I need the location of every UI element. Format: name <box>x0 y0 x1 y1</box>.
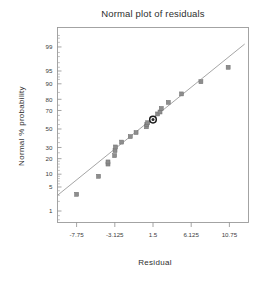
data-point-marker <box>113 154 117 158</box>
x-tick-label: 6.125 <box>183 231 199 238</box>
x-tick-label: 1.5 <box>149 231 158 238</box>
y-tick-label: 20 <box>46 155 53 162</box>
data-point-marker <box>180 92 184 96</box>
data-point-marker <box>159 106 163 110</box>
data-point-marker <box>75 192 79 196</box>
highlighted-data-point <box>150 116 157 123</box>
y-tick-label: 90 <box>46 80 53 87</box>
x-tick-label: -7.75 <box>70 231 85 238</box>
data-point-marker <box>106 160 110 164</box>
data-point-marker <box>113 145 117 149</box>
y-tick-label: 50 <box>46 125 53 132</box>
data-point-marker <box>120 140 124 144</box>
highlight-core <box>152 118 155 121</box>
x-axis-title: Residual <box>138 258 172 267</box>
y-tick-label: 10 <box>46 170 53 177</box>
chart-background <box>0 0 267 284</box>
data-point-marker <box>134 131 138 135</box>
x-tick-label: 10.75 <box>222 231 238 238</box>
y-axis-title: Normal % probability <box>17 86 26 166</box>
x-tick-label: -3.125 <box>106 231 124 238</box>
y-tick-label: 80 <box>46 96 53 103</box>
chart-title: Normal plot of residuals <box>101 8 204 19</box>
data-point-marker <box>146 121 150 125</box>
normal-probability-plot: Normal plot of residuals 151020305070809… <box>0 0 267 284</box>
data-point-marker <box>226 65 230 69</box>
data-point-marker <box>199 80 203 84</box>
y-tick-label: 5 <box>49 183 53 190</box>
y-tick-label: 95 <box>46 67 53 74</box>
data-point-marker <box>128 135 132 139</box>
y-tick-label: 99 <box>46 43 53 50</box>
data-point-marker <box>166 100 170 104</box>
chart-canvas: Normal plot of residuals 151020305070809… <box>0 0 267 284</box>
data-point-marker <box>96 174 100 178</box>
y-tick-label: 70 <box>46 107 53 114</box>
y-tick-label: 30 <box>46 144 53 151</box>
y-tick-label: 1 <box>49 207 53 214</box>
